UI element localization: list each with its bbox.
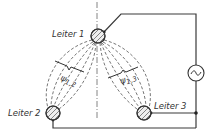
flux-lines-1-3 xyxy=(100,40,150,109)
flux-lines-1-2 xyxy=(46,40,96,109)
label-leiter2: Leiter 2 xyxy=(8,108,41,118)
label-leiter1: Leiter 1 xyxy=(52,29,85,39)
flux-diagram: ψ1,2 ψ1,3 xyxy=(0,0,216,136)
conductor-leiter2 xyxy=(41,104,63,123)
label-psi12: ψ1,2 xyxy=(59,72,79,89)
ac-source xyxy=(188,65,204,81)
label-leiter3: Leiter 3 xyxy=(154,101,187,111)
brace-psi12 xyxy=(55,61,84,72)
conductor-leiter3 xyxy=(132,104,154,123)
